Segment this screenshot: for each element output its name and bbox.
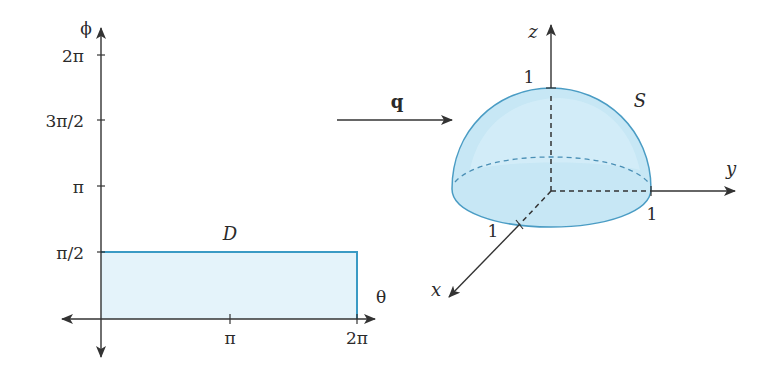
parameter-domain-plot: ϕ 2π 3π/2 π π/2 π 2π θ D (45, 18, 386, 357)
tick-label-2pi-horizontal: 2π (346, 328, 368, 348)
mapping-label-q: q (391, 91, 404, 112)
z-unit-label: 1 (524, 67, 535, 87)
x-axis (449, 225, 519, 297)
hemisphere-parametrization-figure: ϕ 2π 3π/2 π π/2 π 2π θ D q z y (0, 0, 769, 376)
region-d-label: D (222, 223, 238, 244)
tick-label-pi-vertical: π (73, 177, 84, 197)
region-d (101, 252, 357, 319)
y-axis-label: y (725, 158, 737, 179)
y-unit-label: 1 (647, 204, 658, 224)
phi-axis-label: ϕ (80, 18, 92, 38)
mapping-q: q (337, 91, 452, 120)
hemisphere-plot: z y x 1 1 1 S (431, 21, 737, 300)
tick-label-pi2-vertical: π/2 (56, 243, 84, 263)
x-axis-label: x (431, 279, 441, 300)
x-unit-label: 1 (488, 221, 499, 241)
tick-label-3pi2-vertical: 3π/2 (45, 111, 84, 131)
tick-label-2pi-vertical: 2π (62, 46, 84, 66)
surface-s-label: S (634, 90, 646, 111)
tick-label-pi-horizontal: π (224, 328, 235, 348)
theta-axis-label: θ (376, 287, 386, 307)
z-axis-label: z (527, 21, 538, 42)
